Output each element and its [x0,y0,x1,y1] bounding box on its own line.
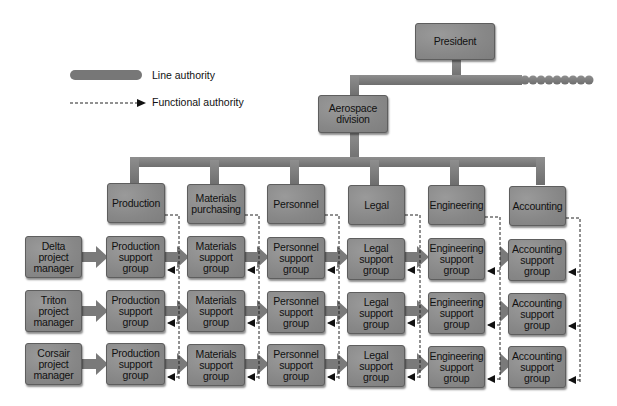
dept-accounting: Accounting [509,186,566,226]
legend-arrow-icon [137,99,146,107]
legend-line-authority-label: Line authority [152,69,215,81]
support-group-materials: Materials support group [187,290,245,332]
support-group-legal: Legal support group [347,238,405,280]
support-group-personnel: Personnel support group [267,237,325,279]
support-group-personnel: Personnel support group [267,291,325,333]
legend [70,70,146,107]
support-group-accounting: Accounting support group [508,239,566,281]
support-group-accounting: Accounting support group [508,293,566,335]
president-box: President [415,23,495,60]
org-chart: Line authority Functional authority Pres… [0,0,617,406]
support-group-production: Production support group [106,236,165,278]
support-group-materials: Materials support group [187,236,245,278]
support-group-legal: Legal support group [347,292,405,334]
aerospace-division-box: Aerospace division [318,95,388,133]
legend-functional-authority-label: Functional authority [152,96,244,108]
dept-legal: Legal [348,185,405,225]
dept-materials-purchasing: Materials purchasing [187,184,245,224]
corsair-project-manager: Corsair project manager [25,343,82,385]
dept-engineering: Engineering [428,185,485,225]
support-group-materials: Materials support group [187,344,245,386]
support-group-accounting: Accounting support group [508,346,566,388]
support-group-engineering: Engineering support group [428,292,485,334]
triton-project-manager: Triton project manager [25,290,82,332]
support-group-engineering: Engineering support group [428,346,485,388]
dept-personnel: Personnel [267,184,325,224]
support-group-personnel: Personnel support group [267,344,325,386]
continuation-beads-icon [521,76,594,85]
support-group-production: Production support group [106,343,165,385]
support-group-legal: Legal support group [347,345,405,387]
delta-project-manager: Delta project manager [25,236,82,278]
support-group-engineering: Engineering support group [428,238,485,280]
legend-line-authority-swatch [70,70,142,80]
support-group-production: Production support group [106,290,165,332]
dept-production: Production [107,183,165,223]
